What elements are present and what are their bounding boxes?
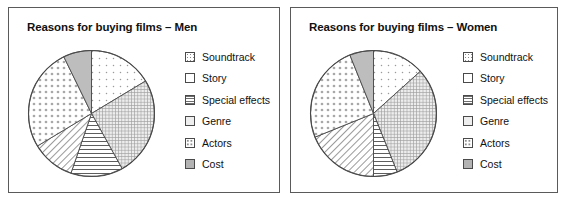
legend-item[interactable]: Actors xyxy=(463,132,566,154)
legend-swatch-genre-icon xyxy=(463,116,473,126)
legend-swatch-cost-icon xyxy=(185,159,195,169)
legend-label: Story xyxy=(202,73,227,84)
legend-item[interactable]: Cost xyxy=(463,154,566,176)
legend-item[interactable]: Genre xyxy=(463,111,566,133)
legend-swatch-cost-icon xyxy=(463,159,473,169)
legend-swatch-story-icon xyxy=(185,73,195,83)
legend-item[interactable]: Soundtrack xyxy=(185,46,295,68)
legend-label: Soundtrack xyxy=(202,52,255,63)
pie-svg-women xyxy=(301,41,446,186)
legend-label: Cost xyxy=(480,159,502,170)
legend-swatch-special-effects-icon xyxy=(185,95,195,105)
legend-women: Soundtrack Story Special effects Genre A… xyxy=(463,46,566,175)
legend-label: Story xyxy=(480,73,505,84)
page-title: Reasons for buying films – Women xyxy=(309,21,497,33)
legend-label: Genre xyxy=(202,116,231,127)
chart-panel-men: Reasons for buying films – Men xyxy=(8,7,280,193)
pie-chart-men xyxy=(19,41,164,186)
legend-swatch-soundtrack-icon xyxy=(463,52,473,62)
legend-label: Genre xyxy=(480,116,509,127)
pie-svg-men xyxy=(19,41,164,186)
legend-item[interactable]: Special effects xyxy=(463,89,566,111)
legend-item[interactable]: Story xyxy=(463,68,566,90)
legend-men: Soundtrack Story Special effects Genre A… xyxy=(185,46,295,175)
page-title: Reasons for buying films – Men xyxy=(27,21,197,33)
legend-swatch-actors-icon xyxy=(185,138,195,148)
legend-item[interactable]: Genre xyxy=(185,111,295,133)
legend-swatch-soundtrack-icon xyxy=(185,52,195,62)
two-pie-chart-figure: Reasons for buying films – Men xyxy=(0,0,566,201)
legend-label: Special effects xyxy=(202,95,270,106)
legend-label: Cost xyxy=(202,159,224,170)
legend-item[interactable]: Story xyxy=(185,68,295,90)
legend-label: Soundtrack xyxy=(480,52,533,63)
legend-label: Special effects xyxy=(480,95,548,106)
chart-panel-women: Reasons for buying films – Women Soundtr… xyxy=(290,7,558,193)
legend-item[interactable]: Cost xyxy=(185,154,295,176)
legend-swatch-story-icon xyxy=(463,73,473,83)
legend-label: Actors xyxy=(202,138,232,149)
legend-swatch-special-effects-icon xyxy=(463,95,473,105)
legend-swatch-actors-icon xyxy=(463,138,473,148)
legend-item[interactable]: Special effects xyxy=(185,89,295,111)
legend-label: Actors xyxy=(480,138,510,149)
pie-chart-women xyxy=(301,41,446,186)
legend-item[interactable]: Actors xyxy=(185,132,295,154)
legend-item[interactable]: Soundtrack xyxy=(463,46,566,68)
legend-swatch-genre-icon xyxy=(185,116,195,126)
